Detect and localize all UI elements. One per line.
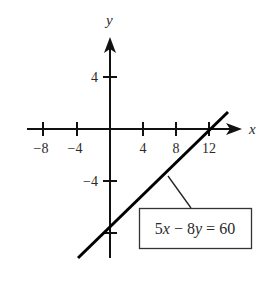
x-tick-label: 4: [140, 141, 147, 156]
equation-label: 5x − 8y = 60: [155, 220, 235, 238]
line-graph: −8 −4 4 8 12 4 −4 x y 5x − 8y = 60: [0, 0, 266, 281]
x-tick-label: 12: [202, 141, 216, 156]
x-tick-label: −8: [34, 141, 49, 156]
y-tick-label: 4: [91, 70, 98, 85]
x-tick-label: 8: [173, 141, 180, 156]
x-tick-label: −4: [68, 141, 83, 156]
y-axis-label: y: [104, 12, 113, 28]
y-tick-label: −4: [83, 174, 98, 189]
leader-line: [168, 176, 191, 208]
x-axis-label: x: [248, 121, 256, 137]
